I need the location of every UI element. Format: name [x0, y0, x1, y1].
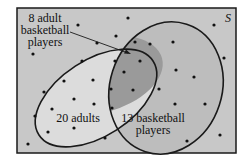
intersection-label-line3: players: [28, 35, 63, 49]
universe-label: S: [225, 11, 231, 25]
venn-diagram: S 8 adult basketball players 20 adults 1…: [0, 0, 251, 165]
adults-label: 20 adults: [56, 111, 100, 125]
players-label-line2: players: [136, 123, 171, 137]
